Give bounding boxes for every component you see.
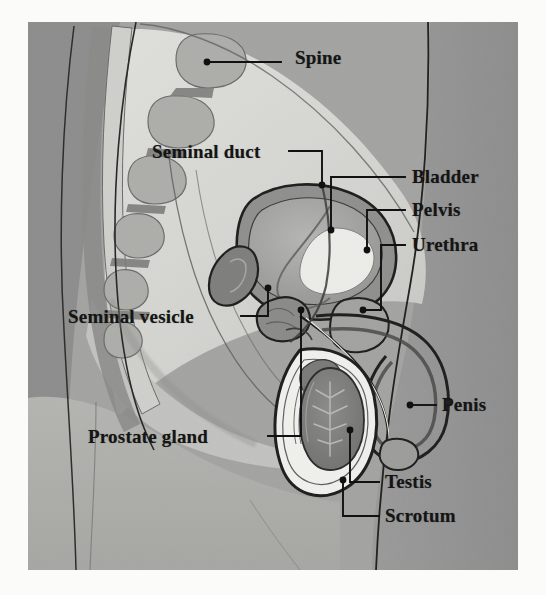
- paper-grain-overlay: [28, 22, 518, 570]
- label-pelvis: Pelvis: [412, 199, 461, 221]
- leader-dot-penis: [407, 402, 414, 409]
- leader-dot-pelvis: [364, 247, 371, 254]
- anatomy-diagram-canvas: [0, 0, 546, 595]
- leader-dot-seminal-vesicle: [265, 285, 272, 292]
- label-prostate-gland: Prostate gland: [88, 426, 208, 448]
- leader-dot-scrotum: [340, 477, 347, 484]
- label-seminal-vesicle: Seminal vesicle: [68, 306, 194, 328]
- label-urethra: Urethra: [412, 234, 478, 256]
- leader-dot-urethra: [360, 307, 367, 314]
- leader-dot-bladder: [328, 227, 335, 234]
- anatomy-figure: SpineSeminal ductBladderPelvisUrethraSem…: [0, 0, 546, 595]
- label-seminal-duct: Seminal duct: [152, 141, 261, 163]
- leader-dot-spine: [204, 59, 211, 66]
- leader-dot-seminal-duct: [319, 182, 326, 189]
- label-testis: Testis: [385, 471, 432, 493]
- label-penis: Penis: [442, 394, 486, 416]
- leader-dot-testis: [347, 427, 354, 434]
- label-spine: Spine: [295, 47, 341, 69]
- label-scrotum: Scrotum: [385, 505, 456, 527]
- leader-dot-prostate-gland: [298, 307, 305, 314]
- label-bladder: Bladder: [412, 166, 479, 188]
